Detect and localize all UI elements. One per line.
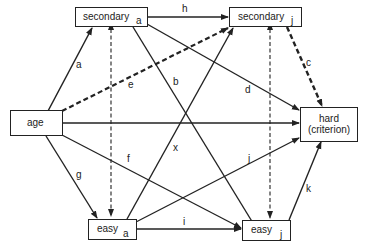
node-age: age xyxy=(10,110,63,136)
node-label: easy xyxy=(97,223,118,234)
edge-c xyxy=(287,27,322,106)
node-subscript: j xyxy=(291,15,293,26)
node-easy-a: easy a xyxy=(88,219,137,240)
node-label: age xyxy=(27,117,44,128)
node-secondary-j: secondary j xyxy=(229,7,302,27)
edge-label-g: g xyxy=(76,169,82,180)
edge-k xyxy=(289,142,321,220)
edge-label-f: f xyxy=(127,153,130,164)
node-label: easy xyxy=(251,224,272,235)
edge-label-h: h xyxy=(182,3,188,14)
node-label: secondary xyxy=(238,11,284,22)
node-secondary-a: secondary a xyxy=(75,7,148,27)
node-label: secondary xyxy=(83,11,129,22)
edge-label-i: i xyxy=(183,216,185,227)
edge-label-d: d xyxy=(245,84,251,95)
edge-e xyxy=(62,28,228,111)
node-subscript: a xyxy=(136,15,142,26)
node-subscript: a xyxy=(123,228,129,239)
node-label-line2: (criterion) xyxy=(301,124,357,135)
edge-label-a: a xyxy=(76,59,82,70)
edge-label-c: c xyxy=(306,57,311,68)
edge-label-b: b xyxy=(173,76,179,87)
node-subscript: j xyxy=(280,229,282,240)
edge-label-j: j xyxy=(248,153,250,164)
edge-label-k: k xyxy=(306,183,311,194)
node-hard-criterion: hard (criterion) xyxy=(300,107,358,142)
edge-label-e: e xyxy=(128,79,134,90)
edge-j xyxy=(136,138,299,222)
edge-d xyxy=(147,24,299,110)
edge-label-x: x xyxy=(173,142,178,153)
node-label-line1: hard xyxy=(301,113,357,124)
edge-g xyxy=(46,136,97,218)
node-easy-j: easy j xyxy=(242,220,291,241)
edge-b xyxy=(133,27,256,228)
